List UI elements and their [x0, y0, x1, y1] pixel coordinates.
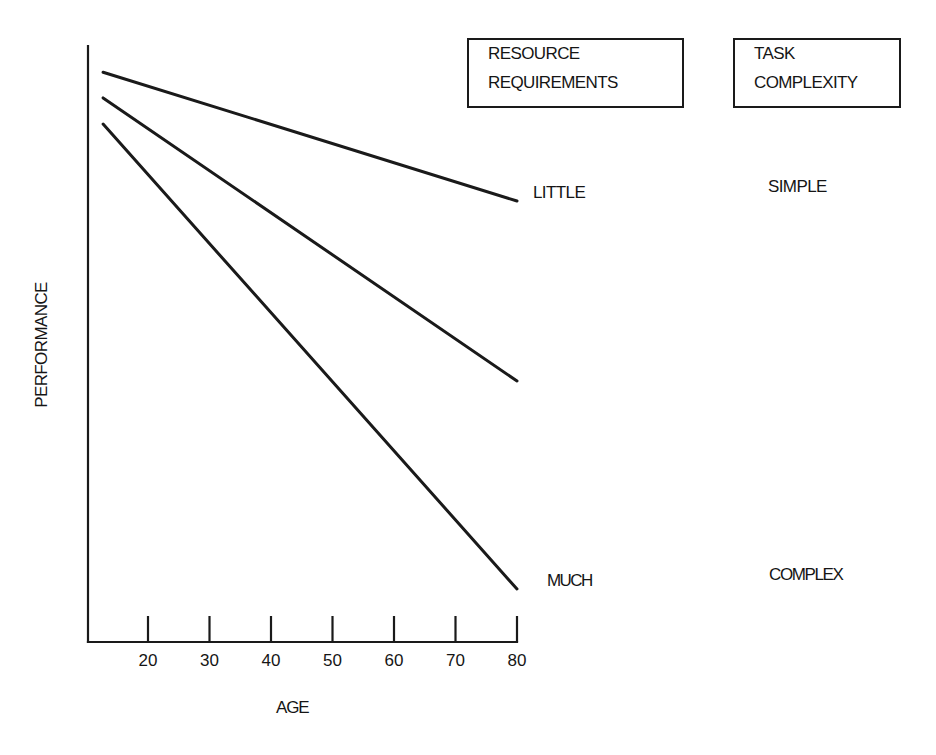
x-tick-label: 50: [313, 651, 353, 671]
series-line-3: [103, 124, 517, 589]
series-line-2: [103, 98, 517, 381]
legend-header-line-2: COMPLEXITY: [754, 73, 858, 93]
y-axis-label: PERFORMANCE: [32, 282, 52, 408]
line-label-little: LITTLE: [533, 183, 585, 203]
legend-box-task-complexity: TASK COMPLEXITY: [733, 38, 901, 108]
line-label-simple: SIMPLE: [768, 177, 827, 197]
x-axis-label: AGE: [276, 698, 308, 718]
x-tick-label: 30: [190, 651, 230, 671]
legend-header-line-1: TASK: [754, 44, 795, 64]
line-label-complex: COMPLEX: [769, 565, 842, 585]
x-tick-label: 60: [374, 651, 414, 671]
legend-header-line-2: REQUIREMENTS: [488, 73, 618, 93]
x-tick-label: 20: [128, 651, 168, 671]
x-tick-label: 70: [436, 651, 476, 671]
x-tick-label: 80: [497, 651, 537, 671]
data-lines: [103, 72, 517, 589]
x-axis-ticks: [148, 616, 517, 642]
chart-canvas: [0, 0, 936, 755]
legend-header-line-1: RESOURCE: [488, 44, 580, 64]
series-line-1: [103, 72, 517, 201]
line-label-much: MUCH: [547, 571, 592, 591]
x-tick-label: 40: [251, 651, 291, 671]
legend-box-resource-requirements: RESOURCE REQUIREMENTS: [467, 38, 684, 108]
